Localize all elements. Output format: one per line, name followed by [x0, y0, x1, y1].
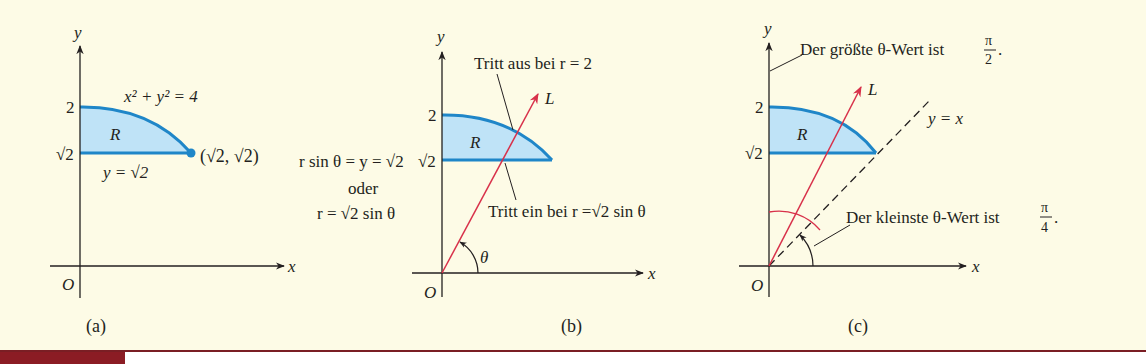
- panel-label-b: (b): [561, 316, 582, 337]
- polar-integration-limits-figure: y x O 2 √2 R x² + y² = 4 y = √2 (√2, √2)…: [0, 0, 1146, 350]
- exit-leader: [497, 74, 513, 130]
- tick-2: 2: [428, 106, 437, 125]
- ray-label: L: [544, 89, 554, 108]
- min-angle-annotation: Der kleinste θ-Wert ist: [846, 208, 1000, 227]
- tick-2: 2: [66, 98, 75, 117]
- min-angle-denominator: 4: [1041, 220, 1048, 235]
- figure-caption-bar: [0, 350, 1146, 364]
- region-label: R: [796, 125, 808, 144]
- intersection-point: [187, 149, 196, 158]
- min-angle-numerator: π: [1041, 200, 1048, 215]
- max-angle-denominator: 2: [985, 52, 992, 67]
- exit-annotation: Tritt aus bei r = 2: [474, 54, 592, 73]
- region-label: R: [109, 125, 121, 144]
- panel-c: y x O 2 √2 R L y = x Der größte θ-Wert i…: [739, 19, 1058, 337]
- min-angle-period: .: [1054, 208, 1058, 227]
- figure-number-tag: [0, 352, 125, 364]
- tick-sqrt2: √2: [418, 152, 436, 171]
- panel-a: y x O 2 √2 R x² + y² = 4 y = √2 (√2, √2)…: [50, 23, 296, 337]
- line-equation: y = √2: [101, 163, 149, 182]
- theta-arc: [460, 242, 478, 273]
- min-leader: [814, 225, 850, 246]
- tick-sqrt2: √2: [745, 144, 763, 163]
- diagonal-label: y = x: [926, 109, 964, 128]
- x-axis-label: x: [971, 257, 980, 276]
- enter-annotation: Tritt ein bei r =√2 sin θ: [488, 202, 646, 221]
- x-axis-label: x: [287, 257, 296, 276]
- panel-label-c: (c): [848, 316, 868, 337]
- max-angle-period: .: [998, 40, 1002, 59]
- y-axis-label: y: [72, 23, 82, 42]
- left-equation-1: r sin θ = y = √2: [299, 152, 404, 171]
- max-angle-numerator: π: [985, 33, 992, 48]
- max-angle-annotation: Der größte θ-Wert ist: [800, 40, 944, 59]
- x-axis-label: x: [647, 264, 656, 283]
- max-leader: [770, 55, 802, 71]
- tick-sqrt2: √2: [56, 145, 74, 164]
- min-angle-arc: [800, 235, 813, 266]
- ray-label: L: [867, 80, 877, 99]
- left-equation-or: oder: [348, 179, 379, 198]
- point-coordinates: (√2, √2): [200, 146, 259, 167]
- max-angle-arc: [769, 211, 820, 230]
- y-axis-label: y: [435, 27, 445, 46]
- tick-2: 2: [755, 98, 764, 117]
- circle-equation: x² + y² = 4: [123, 87, 198, 106]
- origin-label: O: [751, 276, 763, 295]
- panel-label-a: (a): [86, 316, 106, 337]
- panel-b: y x O 2 √2 R L θ Tritt aus bei r = 2 Tri…: [299, 27, 656, 337]
- region-label: R: [469, 133, 481, 152]
- left-equation-2: r = √2 sin θ: [317, 204, 395, 223]
- angle-label: θ: [480, 248, 488, 267]
- origin-label: O: [424, 283, 436, 302]
- enter-leader: [505, 163, 516, 200]
- y-axis-label: y: [762, 19, 772, 38]
- origin-label: O: [62, 275, 74, 294]
